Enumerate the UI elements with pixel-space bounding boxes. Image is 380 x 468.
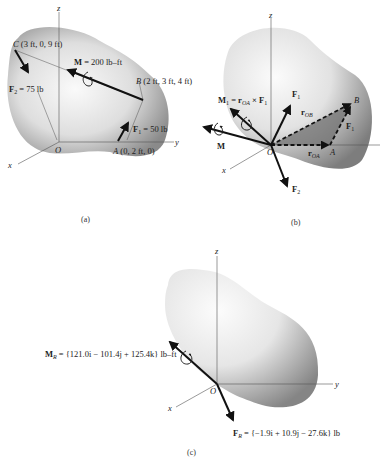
force-f2-label: F2 — [292, 184, 300, 195]
y-axis-label: y — [334, 379, 339, 389]
resultant-force-label: FR = {−1.9i + 10.9j − 27.6k} lb — [233, 428, 340, 439]
point-a-label: A (0, 2 ft, 0) — [112, 146, 155, 156]
z-axis-label: z — [214, 246, 219, 256]
moment-m-curl-icon — [214, 123, 222, 135]
panel-a-caption: (a) — [81, 215, 90, 224]
force-f2-label: F2 = 75 lb — [9, 84, 43, 95]
panel-b: z x O M1 = rOA × F1 F1 rOB B F1 rOA A M — [204, 10, 380, 227]
point-b-label: B (2 ft, 3 ft, 4 ft) — [136, 76, 192, 86]
rigid-body-blob — [165, 269, 318, 407]
x-axis-label: x — [167, 403, 172, 413]
moment-m-label: M — [217, 141, 225, 151]
origin-label: O — [55, 145, 61, 155]
point-b-label: B — [354, 95, 359, 105]
x-axis — [230, 145, 271, 169]
z-axis-label: z — [268, 10, 273, 20]
y-axis-label: y — [174, 137, 179, 147]
point-c-label: C (3 ft, 0, 9 ft) — [13, 39, 63, 49]
moment-m-label: M = 200 lb–ft — [74, 57, 123, 67]
panel-c-caption: (c) — [187, 448, 196, 457]
z-axis-label: z — [56, 3, 61, 13]
point-a-label: A — [329, 147, 336, 157]
x-axis-label: x — [221, 165, 226, 175]
panel-a: z y x O C (3 ft, 0, 9 ft) M = 200 lb–ft … — [7, 3, 192, 224]
resultant-moment-label: MR = {121.0i − 101.4j + 125.4k} lb–ft — [45, 349, 177, 360]
force-f1-label: F1 = 50 lb — [133, 124, 167, 135]
x-axis-label: x — [7, 160, 12, 170]
origin-label: O — [210, 386, 216, 396]
panel-c: z y x O MR = {121.0i − 101.4j + 125.4k} … — [45, 246, 340, 457]
mechanics-figure: z y x O C (3 ft, 0, 9 ft) M = 200 lb–ft … — [0, 0, 380, 468]
panel-b-caption: (b) — [291, 218, 301, 227]
